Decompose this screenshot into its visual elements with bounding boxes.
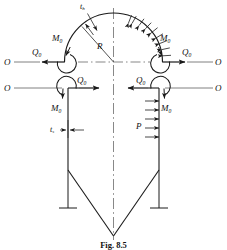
shell-right-shear-label-base: Q xyxy=(136,75,143,85)
shell-left-moment-label-sub: 0 xyxy=(59,108,62,114)
shell-right-moment-label: M0 xyxy=(161,104,171,113)
section-o-lower-left: O xyxy=(4,84,11,93)
shell-thickness-label: ts xyxy=(50,126,54,134)
head-thickness-label: th xyxy=(80,3,85,11)
section-o-lower-left-base: O xyxy=(4,83,11,93)
head-right-shear-label: Q0 xyxy=(182,48,191,57)
radius-label: R xyxy=(97,42,103,51)
head-right-shear-label-sub: 0 xyxy=(189,52,192,58)
figure-caption: Fig. 8.5 xyxy=(0,240,227,250)
head-right-moment-label: M0 xyxy=(160,34,170,43)
shell-left-moment-curl xyxy=(57,76,77,98)
head-thickness-label-sub: h xyxy=(82,6,84,11)
shell-thickness-dimension xyxy=(60,120,84,138)
cone-shoulder-tick-left xyxy=(59,170,77,208)
section-o-upper-left: O xyxy=(4,58,11,67)
head-left-shear-label: Q0 xyxy=(32,48,41,57)
radius-label-base: R xyxy=(97,41,103,51)
figure-pressure-vessel xyxy=(0,0,227,250)
head-left-moment-label-sub: 0 xyxy=(60,38,63,44)
shell-right-moment-curl xyxy=(151,76,171,98)
section-o-lower-right-base: O xyxy=(215,83,222,93)
shell-left-shear-label-base: Q xyxy=(77,75,84,85)
shell-left-shear-label-sub: 0 xyxy=(84,80,87,86)
head-right-moment-label-base: M xyxy=(160,33,168,43)
head-right-moment-label-sub: 0 xyxy=(168,38,171,44)
pressure-label: P xyxy=(136,122,142,131)
shell-pressure-arrows xyxy=(145,101,159,137)
section-o-upper-right-base: O xyxy=(215,57,222,67)
cone-shoulder-tick-right xyxy=(150,170,168,208)
shell-left-shear-label: Q0 xyxy=(77,76,86,85)
head-left-moment-label: M0 xyxy=(52,34,62,43)
head-left-moment-curl xyxy=(57,47,76,73)
pressure-label-base: P xyxy=(136,121,142,131)
head-right-shear-label-base: Q xyxy=(182,47,189,57)
shell-left-moment-label: M0 xyxy=(51,104,61,113)
head-left-moment-label-base: M xyxy=(52,33,60,43)
shell-right-shear-label: Q0 xyxy=(136,76,145,85)
shell-right-moment-label-base: M xyxy=(161,103,169,113)
section-o-lower-right: O xyxy=(215,84,222,93)
shell-right-moment-label-sub: 0 xyxy=(169,108,172,114)
shell-left-moment-label-base: M xyxy=(51,103,59,113)
head-right-moment-curl xyxy=(151,47,170,73)
section-o-upper-right: O xyxy=(215,58,222,67)
head-left-shear-label-base: Q xyxy=(32,47,39,57)
shell-thickness-label-sub: s xyxy=(52,129,54,134)
shell-right-shear-label-sub: 0 xyxy=(143,80,146,86)
section-o-upper-left-base: O xyxy=(4,57,11,67)
head-left-shear-label-sub: 0 xyxy=(39,52,42,58)
